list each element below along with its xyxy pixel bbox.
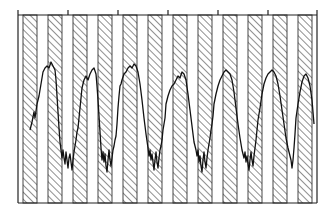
shaded-band <box>23 15 37 203</box>
shaded-bands <box>23 15 312 203</box>
shaded-band <box>298 15 312 203</box>
shaded-band <box>98 15 112 203</box>
shaded-band <box>273 15 287 203</box>
shaded-band <box>123 15 137 203</box>
activity-trace-chart <box>0 0 331 215</box>
chart-frame <box>18 15 317 203</box>
shaded-band <box>198 15 212 203</box>
shaded-band <box>48 15 62 203</box>
shaded-band <box>223 15 237 203</box>
shaded-band <box>173 15 187 203</box>
chart-canvas <box>0 0 331 215</box>
shaded-band <box>148 15 162 203</box>
top-axis-ticks <box>18 10 317 15</box>
